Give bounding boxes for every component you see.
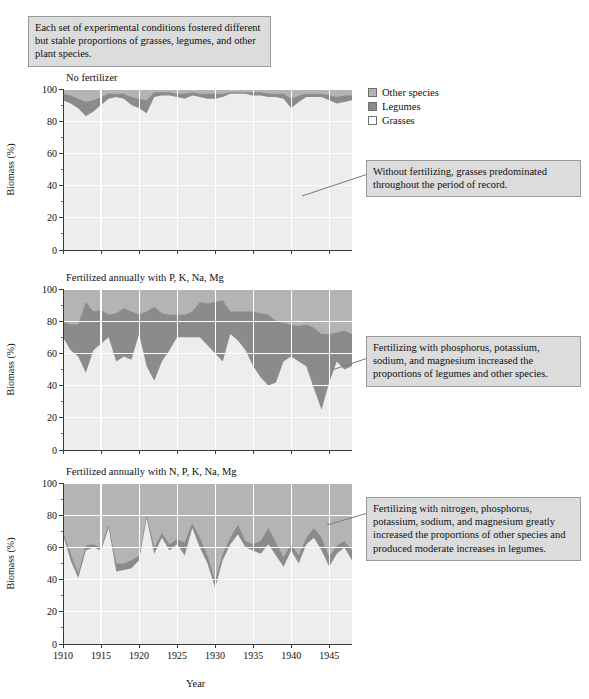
callout-chart2-text: Fertilizing with phosphorus, potassium, … <box>373 341 574 381</box>
callout-chart2: Fertilizing with phosphorus, potassium, … <box>366 336 581 387</box>
svg-text:20: 20 <box>47 606 57 617</box>
legend-item-other-species: Other species <box>368 86 508 99</box>
chart-title-npknamg: Fertilized annually with N, P, K, Na, Mg <box>66 466 237 477</box>
callout-chart1: Without fertilizing, grasses predominate… <box>366 160 581 197</box>
callout-overview: Each set of experimental conditions fost… <box>28 16 271 67</box>
svg-text:40: 40 <box>47 380 57 391</box>
svg-text:1915: 1915 <box>91 650 111 661</box>
figure-root: Each set of experimental conditions fost… <box>0 0 589 699</box>
svg-text:40: 40 <box>47 180 57 191</box>
svg-text:1930: 1930 <box>205 650 225 661</box>
chart-title-pknamg: Fertilized annually with P, K, Na, Mg <box>66 272 224 283</box>
chart-title-no-fertilizer: No fertilizer <box>66 72 118 83</box>
svg-text:1910: 1910 <box>53 650 73 661</box>
callout-chart1-text: Without fertilizing, grasses predominate… <box>373 165 574 191</box>
legend: Other species Legumes Grasses <box>368 86 508 128</box>
legend-item-grasses: Grasses <box>368 114 508 127</box>
legend-label-legumes: Legumes <box>382 101 421 112</box>
callout-chart3: Fertilizing with nitrogen, phosphorus, p… <box>366 497 581 561</box>
chart-svg-pknamg: 020406080100Biomass (%) <box>0 272 360 462</box>
svg-text:0: 0 <box>52 445 57 456</box>
svg-text:80: 80 <box>47 510 57 521</box>
svg-text:100: 100 <box>42 284 57 295</box>
callout-overview-text: Each set of experimental conditions fost… <box>35 21 264 61</box>
legend-swatch-grasses <box>368 116 377 125</box>
svg-text:1935: 1935 <box>243 650 263 661</box>
svg-text:60: 60 <box>47 348 57 359</box>
axis-title-y: Biomass (%) <box>5 344 17 396</box>
svg-text:0: 0 <box>52 245 57 256</box>
svg-text:20: 20 <box>47 412 57 423</box>
svg-text:80: 80 <box>47 116 57 127</box>
svg-text:100: 100 <box>42 84 57 95</box>
svg-text:20: 20 <box>47 212 57 223</box>
chart-panel-no-fertilizer: No fertilizer 020406080100Biomass (%) <box>0 72 360 266</box>
svg-text:0: 0 <box>52 639 57 650</box>
svg-text:100: 100 <box>42 478 57 489</box>
svg-text:1925: 1925 <box>167 650 187 661</box>
svg-text:1920: 1920 <box>129 650 149 661</box>
axis-title-y: Biomass (%) <box>5 144 17 196</box>
axis-title-x: Year <box>186 678 205 689</box>
svg-text:60: 60 <box>47 148 57 159</box>
legend-swatch-other-species <box>368 88 377 97</box>
legend-label-other-species: Other species <box>382 87 439 98</box>
svg-text:60: 60 <box>47 542 57 553</box>
svg-text:40: 40 <box>47 574 57 585</box>
legend-swatch-legumes <box>368 102 377 111</box>
svg-text:1945: 1945 <box>319 650 339 661</box>
axis-title-y: Biomass (%) <box>5 538 17 590</box>
svg-text:80: 80 <box>47 316 57 327</box>
chart-svg-npknamg: 0204060801001910191519201925193019351940… <box>0 466 360 671</box>
chart-panel-pknamg: Fertilized annually with P, K, Na, Mg 02… <box>0 272 360 466</box>
legend-label-grasses: Grasses <box>382 115 415 126</box>
legend-item-legumes: Legumes <box>368 100 508 113</box>
svg-text:1940: 1940 <box>281 650 301 661</box>
chart-svg-no-fertilizer: 020406080100Biomass (%) <box>0 72 360 262</box>
chart-panel-npknamg: Fertilized annually with N, P, K, Na, Mg… <box>0 466 360 675</box>
callout-chart3-text: Fertilizing with nitrogen, phosphorus, p… <box>373 502 574 555</box>
